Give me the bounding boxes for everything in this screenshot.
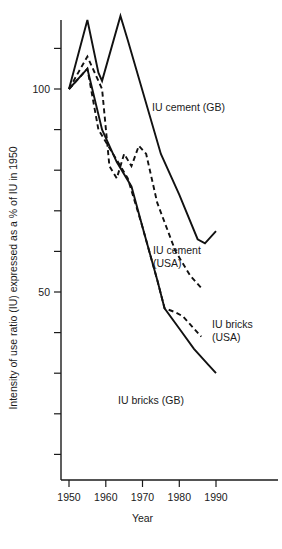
x-tick-label-1980: 1980 (168, 491, 192, 503)
annotation-cement-usa-line1: IU cement (153, 244, 201, 256)
annotation-cement-gb: IU cement (GB) (152, 101, 225, 113)
chart-plot-area: 100 50 1950 1960 1970 1980 1990 Year Int… (0, 0, 282, 549)
series-line-iu-bricks-gb (69, 69, 216, 374)
series-annotations: IU cement (GB) IU cement (USA) IU bricks… (118, 101, 253, 406)
y-axis-title: Intensity of use ratio (IU) expressed as… (7, 146, 19, 409)
annotation-cement-usa-line2: (USA) (153, 257, 182, 269)
x-axis-title: Year (132, 512, 154, 524)
x-tick-label-1970: 1970 (131, 491, 155, 503)
y-tick-label-50: 50 (38, 286, 50, 298)
annotation-bricks-usa-line1: IU bricks (212, 318, 253, 330)
series-line-iu-cement-gb (69, 16, 216, 243)
x-tick-label-1950: 1950 (57, 491, 81, 503)
x-tick-label-1990: 1990 (204, 491, 228, 503)
series-layer (69, 16, 216, 373)
annotation-bricks-usa-line2: (USA) (212, 331, 241, 343)
x-tick-label-1960: 1960 (94, 491, 118, 503)
x-axis-ticks (69, 480, 216, 487)
chart-figure: 100 50 1950 1960 1970 1980 1990 Year Int… (0, 0, 282, 549)
annotation-bricks-gb: IU bricks (GB) (118, 394, 184, 406)
y-axis-ticks (54, 48, 61, 454)
y-tick-label-100: 100 (32, 83, 50, 95)
